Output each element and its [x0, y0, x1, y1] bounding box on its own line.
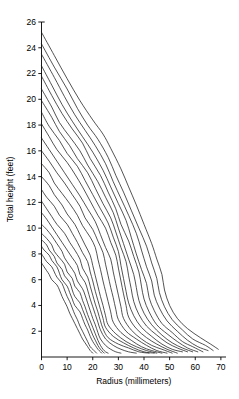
taper-curve	[42, 240, 105, 353]
taper-curve	[42, 254, 97, 353]
taper-curve	[42, 32, 219, 349]
y-tick-label: 6	[31, 275, 36, 285]
x-tick-label: 20	[88, 362, 98, 372]
y-tick-label: 16	[27, 146, 37, 156]
x-tick-label: 60	[191, 362, 201, 372]
y-tick-label: 14	[27, 172, 37, 182]
x-tick-label: 10	[62, 362, 72, 372]
y-tick-label: 22	[27, 68, 37, 78]
taper-curve	[42, 213, 137, 353]
taper-curve	[42, 101, 188, 352]
y-tick-label: 4	[31, 300, 36, 310]
x-tick-label: 40	[139, 362, 149, 372]
taper-curves-figure: 2468101214161820222426010203040506070Rad…	[0, 0, 239, 399]
chart-canvas: 2468101214161820222426010203040506070Rad…	[0, 0, 239, 399]
y-tick-label: 2	[31, 326, 36, 336]
y-axis-title: Total height (feet)	[5, 156, 15, 222]
y-tick-label: 10	[27, 223, 37, 233]
taper-curve	[42, 233, 109, 353]
taper-curve	[42, 44, 214, 351]
y-tick-label: 26	[27, 17, 37, 27]
y-tick-label: 24	[27, 43, 37, 53]
taper-curve	[42, 112, 183, 352]
x-axis-title: Radius (millimeters)	[96, 376, 171, 386]
x-tick-label: 50	[165, 362, 175, 372]
taper-curve	[42, 76, 198, 352]
taper-curve	[42, 66, 203, 352]
y-tick-label: 8	[31, 249, 36, 259]
x-tick-label: 30	[114, 362, 124, 372]
taper-curve	[42, 263, 93, 353]
y-tick-label: 18	[27, 120, 37, 130]
taper-curve	[42, 224, 121, 353]
y-tick-label: 20	[27, 94, 37, 104]
taper-curve	[42, 124, 178, 353]
x-tick-label: 0	[39, 362, 44, 372]
taper-curve	[42, 246, 102, 353]
x-tick-label: 70	[216, 362, 226, 372]
y-tick-label: 12	[27, 197, 37, 207]
